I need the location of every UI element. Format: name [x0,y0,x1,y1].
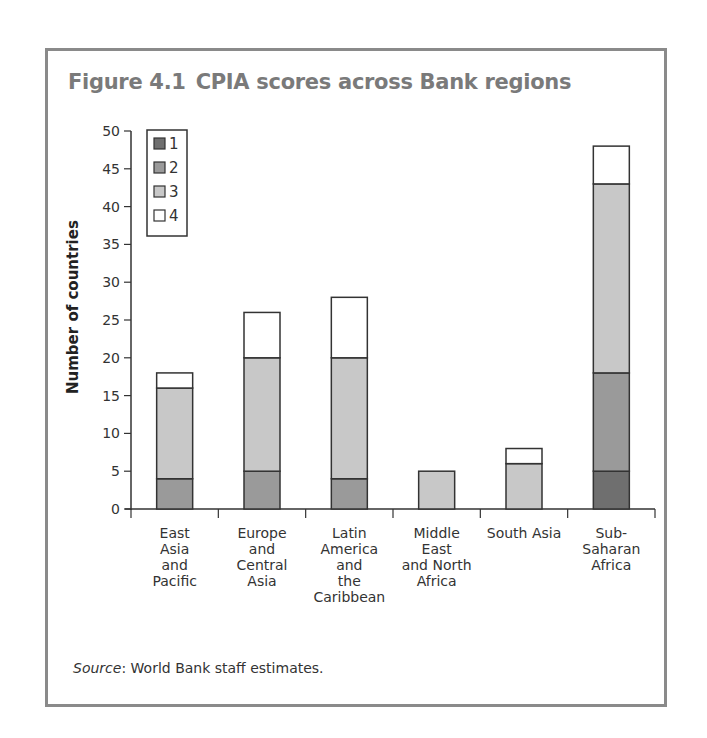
legend-swatch-2 [154,162,165,173]
y-tick-label: 45 [102,161,120,177]
source-note: Source: World Bank staff estimates. [73,660,324,676]
bar-segment-score-4 [506,449,542,464]
y-tick-label: 35 [102,236,120,252]
stacked-bar-chart: 051015202530354045501234 [0,0,707,738]
y-tick-label: 20 [102,350,120,366]
bar-segment-score-3 [419,471,455,509]
source-text: : World Bank staff estimates. [121,660,323,676]
y-tick-label: 30 [102,274,120,290]
legend-swatch-1 [154,138,165,149]
bar-segment-score-3 [506,464,542,509]
bar-segment-score-3 [244,358,280,471]
bar-segment-score-2 [593,373,629,471]
y-tick-label: 10 [102,425,120,441]
y-tick-label: 25 [102,312,120,328]
source-label: Source [73,660,121,676]
bar-segment-score-3 [331,358,367,479]
y-tick-label: 40 [102,199,120,215]
y-tick-label: 5 [111,463,120,479]
legend-label: 2 [169,159,179,177]
bar-segment-score-4 [593,146,629,184]
legend-swatch-3 [154,186,165,197]
legend-label: 3 [169,183,179,201]
bar-segment-score-4 [157,373,193,388]
legend-label: 4 [169,207,179,225]
legend-label: 1 [169,135,179,153]
bar-segment-score-4 [331,297,367,357]
bar-segment-score-4 [244,312,280,357]
bar-segment-score-3 [157,388,193,479]
bar-segment-score-2 [331,479,367,509]
y-tick-label: 0 [111,501,120,517]
legend-box [147,130,187,236]
y-tick-label: 50 [102,123,120,139]
bar-segment-score-1 [593,471,629,509]
bar-segment-score-2 [244,471,280,509]
x-category-label: Sub-SaharanAfrica [556,525,666,573]
y-tick-label: 15 [102,388,120,404]
bar-segment-score-3 [593,184,629,373]
bar-segment-score-2 [157,479,193,509]
legend-swatch-4 [154,210,165,221]
